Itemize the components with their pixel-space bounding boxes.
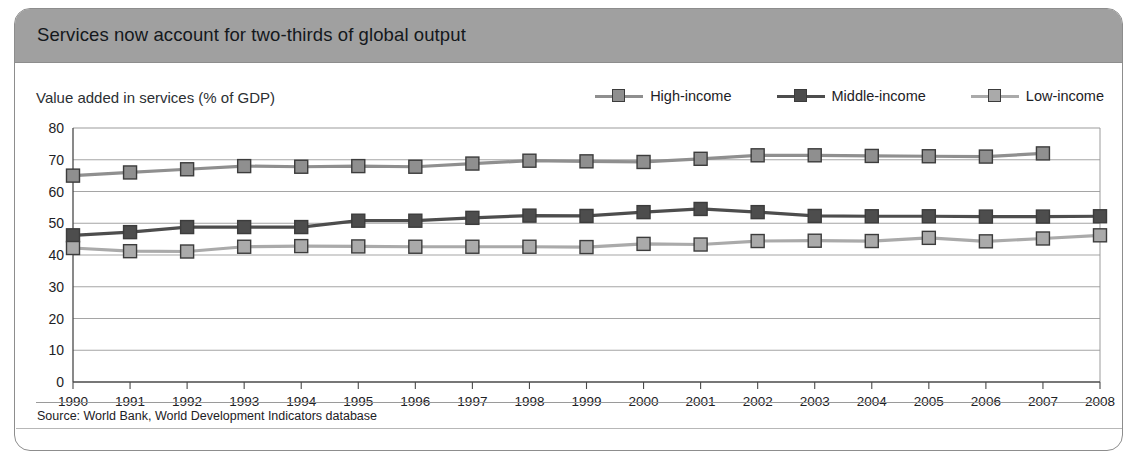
svg-text:30: 30 — [48, 279, 64, 295]
svg-text:20: 20 — [48, 311, 64, 327]
footer-divider — [36, 402, 1104, 403]
svg-text:0: 0 — [56, 374, 64, 390]
svg-text:40: 40 — [48, 247, 64, 263]
data-series-group — [67, 147, 1107, 258]
svg-text:60: 60 — [48, 184, 64, 200]
footer-bottom-divider — [16, 428, 1122, 429]
source-note: Source: World Bank, World Development In… — [37, 409, 377, 423]
svg-text:50: 50 — [48, 215, 64, 231]
line-chart-svg: 01020304050607080 1990199119921993199419… — [15, 9, 1123, 451]
svg-text:70: 70 — [48, 152, 64, 168]
chart-figure: Services now account for two-thirds of g… — [14, 8, 1123, 451]
y-axis-tick-labels: 01020304050607080 — [48, 120, 64, 390]
svg-text:80: 80 — [48, 120, 64, 136]
chart-plot-area: 01020304050607080 1990199119921993199419… — [15, 9, 1122, 450]
svg-text:10: 10 — [48, 342, 64, 358]
